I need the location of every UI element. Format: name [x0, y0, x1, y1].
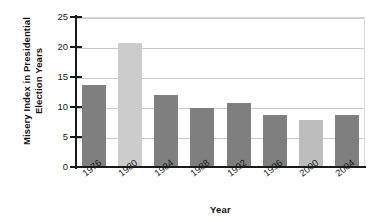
plot-area: [76, 17, 365, 167]
gridline-25: [76, 18, 364, 19]
y-tick-10: [70, 106, 82, 108]
y-tick-25: [70, 16, 82, 18]
y-tick-label-0: 0: [42, 161, 68, 172]
y-tick-label-5: 5: [42, 131, 68, 142]
x-axis-title: Year: [76, 204, 365, 215]
y-tick-5: [70, 136, 82, 138]
y-tick-label-10: 10: [42, 101, 68, 112]
y-tick-20: [70, 46, 82, 48]
y-axis-title-line-1: Misery Index in Presidential: [21, 17, 34, 145]
y-tick-15: [70, 76, 82, 78]
y-tick-label-20: 20: [42, 41, 68, 52]
misery-index-bar-chart: Misery Index in Presidential Election Ye…: [0, 0, 391, 222]
y-tick-label-25: 25: [42, 11, 68, 22]
y-axis-line: [75, 15, 77, 169]
y-tick-label-15: 15: [42, 71, 68, 82]
bar-1980: [118, 43, 142, 167]
